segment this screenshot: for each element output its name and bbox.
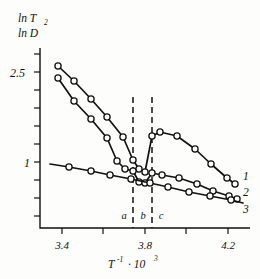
y-tick-label-2-5: 2.5 (10, 66, 25, 80)
zone-label-c: c (159, 210, 164, 221)
vertical-dashed-lines (133, 97, 152, 228)
y-axis-ticks (34, 54, 40, 216)
series-3-markers (66, 164, 234, 203)
x-axis-title-exponent-1: -1 (117, 255, 123, 264)
zone-label-a: a (121, 210, 126, 221)
series-3-label: 3 (242, 203, 249, 215)
x-tick-label-4-2: 4.2 (221, 239, 235, 251)
x-axis-title-main: T (108, 258, 116, 270)
series-1-label: 1 (243, 170, 249, 182)
y-axis-label-line2: ln D (18, 27, 39, 39)
x-tick-label-3-4: 3.4 (54, 239, 69, 251)
y-tick-label-1: 1 (24, 156, 30, 170)
x-axis-title-exponent-2: 3 (153, 254, 158, 263)
series-2-label: 2 (243, 186, 249, 198)
x-axis-ticks (62, 228, 228, 234)
y-axis-label: ln T 2 ln D (18, 12, 48, 39)
y-axis-label-line1-subscript: 2 (44, 18, 48, 27)
x-tick-label-3-8: 3.8 (137, 239, 152, 251)
chart-svg: ln T 2 ln D 2.5 1 (0, 0, 260, 279)
y-axis-label-line1: ln T (18, 12, 38, 24)
axis-lines (40, 48, 250, 228)
zone-label-b: b (140, 210, 145, 221)
figure-root: ln T 2 ln D 2.5 1 (0, 0, 260, 279)
x-axis-title-middle: · 10 (128, 258, 146, 270)
x-axis-title: T -1 · 10 3 (108, 254, 158, 270)
